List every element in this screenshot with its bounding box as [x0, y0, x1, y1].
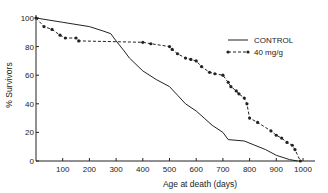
- x-tick-label: 800: [243, 165, 257, 174]
- x-tick-label: 400: [136, 165, 150, 174]
- y-tick-label: 20: [25, 128, 34, 137]
- data-point-marker: [176, 52, 179, 55]
- data-point-marker: [168, 45, 171, 48]
- survival-chart: 0204060801001002003004005006007008009001…: [0, 0, 328, 193]
- data-point-marker: [77, 39, 80, 42]
- legend-label-control: CONTROL: [254, 36, 294, 45]
- data-point-marker: [235, 89, 238, 92]
- data-point-marker: [245, 102, 248, 105]
- x-tick-label: 500: [163, 165, 177, 174]
- data-point-marker: [58, 34, 61, 37]
- data-point-marker: [149, 42, 152, 45]
- data-point-marker: [285, 141, 288, 144]
- data-point-marker: [195, 59, 198, 62]
- data-point-marker: [275, 134, 278, 137]
- data-point-marker: [256, 121, 259, 124]
- data-point-marker: [50, 28, 53, 31]
- data-point-marker: [208, 71, 211, 74]
- y-tick-label: 80: [25, 43, 34, 52]
- y-axis-label: % Survivors: [4, 62, 14, 107]
- data-point-marker: [243, 96, 246, 99]
- data-point-marker: [221, 74, 224, 77]
- x-tick-label: 700: [216, 165, 230, 174]
- data-point-marker: [237, 92, 240, 95]
- legend: CONTROL40 mg/g: [226, 36, 293, 57]
- data-point-marker: [64, 36, 67, 39]
- data-point-marker: [291, 144, 294, 147]
- data-point-marker: [280, 137, 283, 140]
- legend-label-40mg: 40 mg/g: [254, 48, 283, 57]
- data-point-marker: [248, 117, 251, 120]
- x-tick-label: 300: [109, 165, 123, 174]
- data-point-marker: [227, 81, 230, 84]
- x-tick-label: 600: [190, 165, 204, 174]
- y-tick-label: 60: [25, 71, 34, 80]
- data-point-marker: [171, 48, 174, 51]
- x-tick-label: 900: [270, 165, 284, 174]
- y-tick-label: 100: [21, 14, 35, 23]
- data-point-marker: [34, 16, 37, 19]
- data-point-marker: [184, 56, 187, 59]
- x-tick-label: 200: [83, 165, 97, 174]
- data-point-marker: [229, 85, 232, 88]
- x-tick-label: 1000: [294, 165, 312, 174]
- data-point-marker: [269, 129, 272, 132]
- data-point-marker: [213, 72, 216, 75]
- data-point-marker: [293, 148, 296, 151]
- data-point-marker: [189, 58, 192, 61]
- data-point-marker: [200, 65, 203, 68]
- legend-marker: [226, 50, 229, 53]
- x-axis-label: Age at death (days): [163, 179, 237, 189]
- data-point-marker: [74, 36, 77, 39]
- y-tick-label: 0: [30, 157, 35, 166]
- data-point-marker: [299, 159, 302, 162]
- data-point-marker: [42, 25, 45, 28]
- x-tick-label: 100: [56, 165, 70, 174]
- legend-marker: [246, 50, 249, 53]
- data-point-marker: [141, 41, 144, 44]
- y-tick-label: 40: [25, 100, 34, 109]
